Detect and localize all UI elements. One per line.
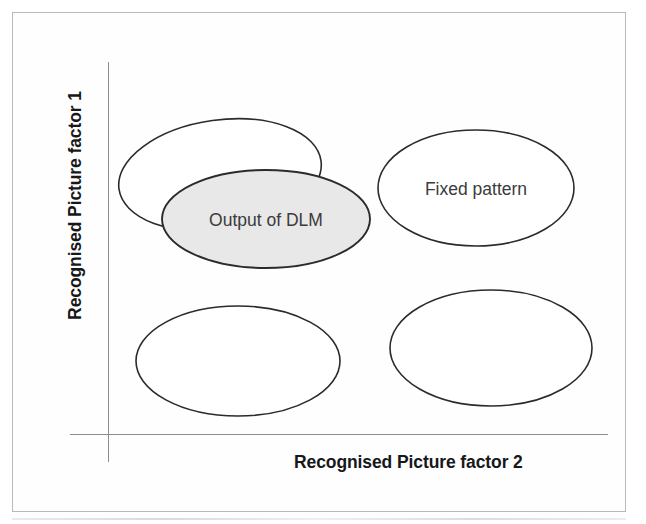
figure-canvas: Fixed pattern Output of DLM Recognised P…: [0, 0, 646, 524]
cluster-fixed-pattern-label: Fixed pattern: [425, 179, 527, 199]
y-axis-label: Recognised Picture factor 1: [65, 76, 86, 336]
x-axis-label: Recognised Picture factor 2: [294, 452, 523, 473]
cluster-output-of-dlm-label: Output of DLM: [209, 210, 323, 230]
cluster-bottom-right-unlabeled: [390, 290, 592, 406]
cluster-shapes: Fixed pattern Output of DLM: [0, 0, 646, 524]
cluster-bottom-left-unlabeled: [136, 306, 340, 416]
